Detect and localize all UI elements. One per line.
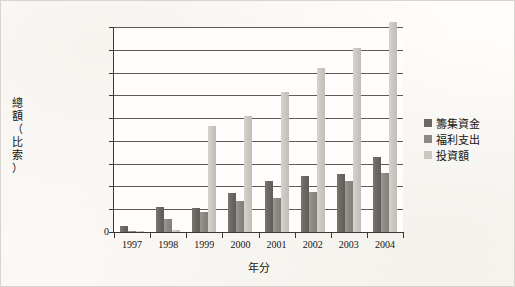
legend-label: 籌集資金 (436, 115, 480, 131)
bar (208, 126, 216, 232)
x-axis-tickmark (150, 232, 151, 238)
bar (273, 198, 281, 232)
bar (228, 193, 236, 232)
y-axis-title-char: 比 (9, 136, 25, 149)
bar (265, 181, 273, 232)
legend-item: 福利支出 (424, 131, 510, 147)
bar-group (295, 27, 331, 232)
y-tick-label-zero: 0 (95, 226, 109, 237)
x-tick-label: 2000 (222, 239, 258, 250)
y-axis-title-char: ） (9, 162, 25, 175)
x-axis-labels: 19971998199920002001200220032004 (114, 239, 403, 250)
legend-swatch-icon (424, 151, 432, 159)
bar-group (331, 27, 367, 232)
bar (353, 48, 361, 232)
bar (373, 157, 381, 232)
chart-legend: 籌集資金福利支出投資額 (424, 115, 510, 163)
legend-swatch-icon (424, 135, 432, 143)
y-axis-title-char: 索 (9, 149, 25, 162)
bar (301, 176, 309, 232)
bar-group (114, 27, 150, 232)
x-axis-tickmark (259, 232, 260, 238)
x-tick-label: 2001 (259, 239, 295, 250)
x-axis-tickmark (222, 232, 223, 238)
y-axis-title-char: 總 (9, 97, 25, 110)
x-tick-label: 2004 (367, 239, 403, 250)
legend-swatch-icon (424, 119, 432, 127)
x-tick-label: 2002 (295, 239, 331, 250)
x-axis-title: 年分 (114, 259, 403, 275)
bar (156, 207, 164, 232)
bar (389, 22, 397, 232)
x-tick-label: 1998 (150, 239, 186, 250)
legend-item: 籌集資金 (424, 115, 510, 131)
bar-group (150, 27, 186, 232)
x-tick-label: 2003 (331, 239, 367, 250)
x-tick-label: 1997 (114, 239, 150, 250)
bar-groups (114, 27, 403, 232)
bar (337, 174, 345, 232)
legend-label: 投資額 (436, 147, 469, 163)
bar (381, 173, 389, 232)
bar-group (222, 27, 258, 232)
bar-group (259, 27, 295, 232)
bar-group (367, 27, 403, 232)
x-axis-tickmark (331, 232, 332, 238)
x-tick-label: 1999 (186, 239, 222, 250)
y-axis-title: 總額（比索） (9, 97, 25, 175)
bar-group (186, 27, 222, 232)
bar (200, 212, 208, 232)
x-axis-tickmarks (114, 232, 403, 238)
bar (192, 208, 200, 232)
x-axis-tickmark (114, 232, 115, 238)
bar (244, 116, 252, 232)
bar (236, 201, 244, 232)
bar (164, 219, 172, 232)
y-axis-title-char: 額 (9, 110, 25, 123)
x-axis-tickmark (186, 232, 187, 238)
bar (309, 192, 317, 232)
x-axis-tickmark (295, 232, 296, 238)
bar (317, 68, 325, 232)
plot-area: 5,000,000,00010,000,000,00015,000,000,00… (114, 27, 403, 232)
legend-item: 投資額 (424, 147, 510, 163)
x-axis-tickmark (367, 232, 368, 238)
x-axis-tickmark (403, 232, 404, 238)
bar (281, 92, 289, 232)
y-axis-title-char: （ (9, 123, 25, 136)
chart-figure: 總額（比索） 5,000,000,00010,000,000,00015,000… (0, 0, 515, 287)
legend-label: 福利支出 (436, 131, 480, 147)
bar (345, 181, 353, 232)
